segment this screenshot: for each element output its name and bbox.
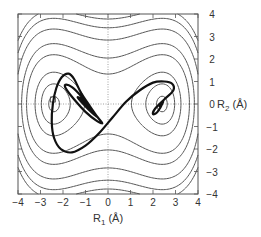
y-axis: −4−3−2−101234 bbox=[18, 9, 218, 200]
x-tick-label: −2 bbox=[57, 197, 69, 208]
y-tick-label: −2 bbox=[206, 144, 218, 155]
x-axis: −4−3−2−101234 bbox=[12, 14, 201, 208]
y-tick-label: 0 bbox=[209, 99, 215, 110]
trajectory bbox=[52, 74, 174, 153]
y-tick-label: 4 bbox=[209, 9, 215, 20]
x-tick-label: −3 bbox=[35, 197, 47, 208]
y-tick-label: 2 bbox=[209, 54, 215, 65]
y-tick-label: −1 bbox=[206, 122, 218, 133]
contour-plot: −4−3−2−101234 −4−3−2−101234 R1 (Å) R2 (Å… bbox=[0, 0, 261, 237]
x-tick-label: 3 bbox=[173, 197, 179, 208]
x-tick-label: −4 bbox=[12, 197, 24, 208]
x-tick-label: 1 bbox=[128, 197, 134, 208]
zero-lines bbox=[18, 14, 198, 194]
y-axis-label: R2 (Å) bbox=[217, 98, 247, 113]
x-axis-label: R1 (Å) bbox=[93, 212, 123, 227]
y-tick-label: 3 bbox=[209, 32, 215, 43]
x-tick-label: −1 bbox=[80, 197, 92, 208]
trajectory-path bbox=[52, 74, 174, 153]
y-tick-label: 1 bbox=[209, 77, 215, 88]
y-tick-label: −4 bbox=[206, 189, 218, 200]
y-tick-label: −3 bbox=[206, 167, 218, 178]
x-tick-label: 0 bbox=[105, 197, 111, 208]
x-tick-label: 4 bbox=[195, 197, 201, 208]
x-tick-label: 2 bbox=[150, 197, 156, 208]
